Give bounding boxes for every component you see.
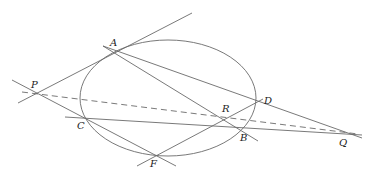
- point-label-r: R: [221, 103, 230, 114]
- point-label-p: P: [30, 79, 38, 90]
- point-label-d: D: [263, 95, 272, 106]
- geometry-diagram: A P C F B R D Q: [0, 0, 369, 181]
- line-P-C-F: [12, 80, 176, 166]
- line-P-Q: [22, 92, 358, 134]
- line-A-D-Q: [103, 46, 362, 138]
- point-label-f: F: [149, 158, 158, 169]
- point-label-b: B: [239, 132, 247, 143]
- point-label-c: C: [77, 120, 85, 131]
- diagram-labels: A P C F B R D Q: [30, 37, 347, 169]
- point-label-a: A: [109, 37, 117, 48]
- tangent-at-A: [18, 13, 192, 103]
- line-C-B-Q: [65, 117, 362, 135]
- diagram-shapes: [12, 13, 362, 166]
- point-label-q: Q: [339, 137, 347, 148]
